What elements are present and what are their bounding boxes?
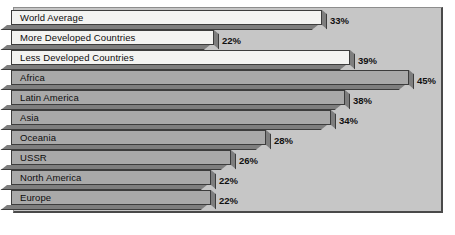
chart-screenshot: World Average33%More Developed Countries… xyxy=(0,0,455,235)
bar-series-layer: World Average33%More Developed Countries… xyxy=(0,0,455,235)
bar-category-label: Oceania xyxy=(20,131,56,144)
bar-side-face xyxy=(266,130,271,149)
bar-category-label: Latin America xyxy=(20,91,79,104)
bar-value-label: 22% xyxy=(219,194,238,207)
bar-category-label: World Average xyxy=(20,11,83,24)
bar-front-face[interactable] xyxy=(11,70,409,85)
bar-category-label: Asia xyxy=(20,111,39,124)
bar-value-label: 22% xyxy=(222,34,241,47)
bar-side-face xyxy=(322,10,327,29)
bar-value-label: 34% xyxy=(339,114,358,127)
bar-category-label: Europe xyxy=(20,191,51,204)
bar-value-label: 26% xyxy=(239,154,258,167)
bar-side-face xyxy=(211,190,216,209)
bar-category-label: Less Developed Countries xyxy=(20,51,134,64)
bar-side-face xyxy=(214,30,219,49)
bar-side-face xyxy=(211,170,216,189)
bar-side-face xyxy=(231,150,236,169)
bar-value-label: 38% xyxy=(353,94,372,107)
bar-category-label: USSR xyxy=(20,151,47,164)
bar-side-face xyxy=(345,90,350,109)
bar-front-face[interactable] xyxy=(11,110,331,125)
bar-side-face xyxy=(350,50,355,69)
bar-value-label: 45% xyxy=(417,74,436,87)
bar-category-label: More Developed Countries xyxy=(20,31,135,44)
bar-side-face xyxy=(409,70,414,89)
bar-value-label: 28% xyxy=(274,134,293,147)
bar-category-label: Africa xyxy=(20,71,45,84)
bar-category-label: North America xyxy=(20,171,82,184)
bar-value-label: 33% xyxy=(330,14,349,27)
bar-side-face xyxy=(331,110,336,129)
bar-value-label: 39% xyxy=(358,54,377,67)
bar-value-label: 22% xyxy=(219,174,238,187)
bar-bottom-face xyxy=(1,205,207,210)
